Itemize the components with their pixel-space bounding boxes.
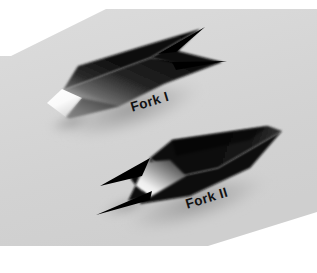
fork-photograph (0, 0, 317, 273)
figure-root: Fork I Fork II (0, 0, 317, 273)
